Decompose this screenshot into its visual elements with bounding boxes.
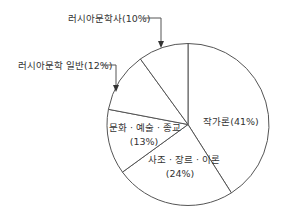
slice-label-culture-art-religion-pct: (13%) — [130, 136, 159, 147]
callout-label-russian-lit-history: 러시아문학사(10%) — [68, 13, 151, 24]
slice-label-culture-art-religion: 문화 · 예술 · 종교 — [109, 122, 181, 133]
slice-label-trends-genres-theory: 사조 · 장르 · 이론 — [148, 154, 220, 165]
callout-label-russian-lit-general: 러시아문학 일반(12%) — [18, 60, 113, 71]
pie-chart: 러시아문학사(10%) 러시아문학 일반(12%) 작가론(41%) 사조 · … — [0, 0, 285, 223]
slice-label-author-studies: 작가론(41%) — [203, 116, 259, 127]
callout-russian-lit-general: 러시아문학 일반(12%) — [18, 60, 119, 93]
callout-russian-lit-history: 러시아문학사(10%) — [68, 13, 164, 49]
slice-label-trends-genres-theory-pct: (24%) — [166, 168, 195, 179]
